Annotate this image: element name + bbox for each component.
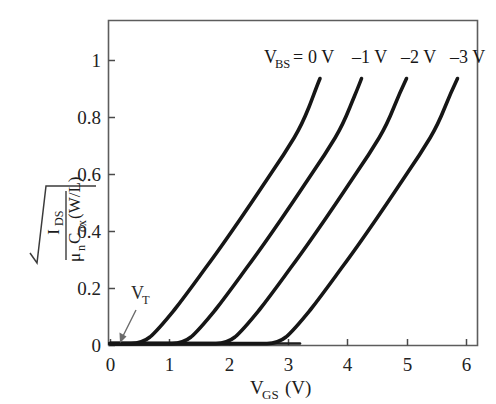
legend-item-2: –2 V (400, 47, 436, 67)
vt-label-sub: T (142, 293, 150, 307)
curve-vbs-minus-2 (110, 79, 407, 344)
x-axis-title: V GS (V) (250, 377, 311, 402)
x-axis-title-sub: GS (262, 387, 279, 402)
mosfet-transfer-characteristic-chart: 0 0.2 0.4 0.6 0.8 1 0 1 2 3 4 5 6 (0, 0, 496, 404)
y-axis-numerator-sub: DS (52, 211, 66, 226)
data-curves (110, 79, 458, 344)
figure-container: 0 0.2 0.4 0.6 0.8 1 0 1 2 3 4 5 6 (0, 0, 496, 404)
x-tick-label-6: 6 (462, 354, 472, 375)
y-tick-label-0: 0 (92, 335, 102, 356)
y-tick-label-0.8: 0.8 (77, 107, 101, 128)
y-axis-title: I DS μ n C ox (W/L) (30, 177, 96, 263)
y-tick-label-1: 1 (92, 50, 102, 71)
legend-item-3: –3 V (449, 47, 485, 67)
curve-vbs-minus-3 (110, 79, 458, 344)
x-tick-label-4: 4 (343, 354, 353, 375)
x-axis-title-unit: (V) (285, 377, 311, 399)
x-tick-label-1: 1 (165, 354, 175, 375)
vt-arrow-shaft (122, 310, 136, 338)
vt-arrow-head (120, 333, 127, 344)
y-axis-denominator-mu-sub: n (74, 245, 88, 251)
vt-annotation: V T (120, 283, 151, 343)
y-axis-denominator-c: C (65, 233, 84, 244)
x-axis-tick-labels: 0 1 2 3 4 5 6 (106, 354, 472, 375)
legend: V BS = 0 V –1 V –2 V –3 V (264, 47, 485, 71)
legend-equals: = (293, 47, 303, 67)
y-axis-ticks (109, 61, 116, 346)
legend-item-0: 0 V (308, 47, 334, 67)
y-axis-denominator-mu: μ (65, 253, 84, 262)
x-tick-label-0: 0 (106, 354, 116, 375)
legend-item-1: –1 V (351, 47, 387, 67)
legend-prefix-sub: BS (275, 57, 290, 71)
x-tick-label-3: 3 (284, 354, 294, 375)
y-axis-denominator-c-sub: ox (75, 220, 89, 232)
y-tick-label-0.2: 0.2 (77, 278, 101, 299)
x-tick-label-2: 2 (225, 354, 235, 375)
x-tick-label-5: 5 (403, 354, 413, 375)
axis-frame (109, 21, 478, 346)
y-axis-numerator-main: I (44, 229, 63, 235)
y-axis-denominator-tail: (W/L) (65, 177, 84, 219)
plot-axes (109, 21, 478, 346)
